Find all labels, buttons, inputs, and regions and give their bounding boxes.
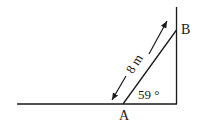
point-b-label: B [181, 22, 190, 37]
ladder-diagram: 8 m 59 ° A B [0, 0, 199, 130]
angle-label: 59 ° [138, 87, 159, 102]
ladder-length-label: 8 m [123, 51, 146, 76]
point-a-label: A [119, 108, 130, 123]
dimension-arrow-upper [149, 21, 167, 54]
dimension-arrow-lower [112, 76, 126, 100]
